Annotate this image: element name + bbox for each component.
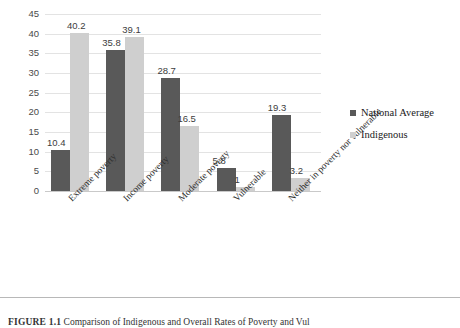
value-label-national-average: 19.3 xyxy=(268,103,287,113)
chart-plot-frame: 051015202530354045 10.440.235.839.128.71… xyxy=(0,0,460,298)
bar-group xyxy=(45,14,100,191)
legend-swatch-icon xyxy=(350,132,356,138)
legend-label: National Average xyxy=(361,108,434,119)
bar-indigenous xyxy=(70,33,89,191)
y-tick-label-35: 35 xyxy=(15,48,39,58)
bar-national-average xyxy=(217,168,236,191)
value-label-national-average: 10.4 xyxy=(47,138,66,148)
value-label-national-average: 35.8 xyxy=(102,38,121,48)
y-tick-label-10: 10 xyxy=(15,147,39,157)
y-tick-label-5: 5 xyxy=(15,166,39,176)
value-label-indigenous: 3.2 xyxy=(290,166,303,176)
figure-caption-text: Comparison of Indigenous and Overall Rat… xyxy=(64,317,310,327)
legend-swatch-icon xyxy=(350,110,356,116)
y-tick-label-25: 25 xyxy=(15,88,39,98)
y-tick-label-45: 45 xyxy=(15,9,39,19)
plot-area: 10.440.235.839.128.716.55.8119.33.2 xyxy=(45,14,321,191)
legend-label: Indigenous xyxy=(361,130,408,141)
bar-indigenous xyxy=(125,37,144,191)
bar-national-average xyxy=(272,115,291,191)
figure-caption-label: FIGURE 1.1 xyxy=(8,317,61,327)
legend-item[interactable]: National Average xyxy=(350,108,456,119)
y-tick-label-0: 0 xyxy=(15,186,39,196)
y-tick-label-40: 40 xyxy=(15,29,39,39)
legend-item[interactable]: Indigenous xyxy=(350,130,456,141)
figure-container: 051015202530354045 10.440.235.839.128.71… xyxy=(0,0,460,328)
value-label-indigenous: 1 xyxy=(235,175,240,185)
bar-national-average xyxy=(106,50,125,191)
bar-national-average xyxy=(161,78,180,191)
chart-legend: National AverageIndigenous xyxy=(350,108,456,151)
value-label-indigenous: 16.5 xyxy=(177,114,196,124)
y-tick-label-15: 15 xyxy=(15,127,39,137)
bar-national-average xyxy=(51,150,70,191)
figure-caption: FIGURE 1.1 Comparison of Indigenous and … xyxy=(8,316,456,328)
value-label-national-average: 28.7 xyxy=(157,66,176,76)
value-label-indigenous: 39.1 xyxy=(122,25,141,35)
y-tick-label-20: 20 xyxy=(15,107,39,117)
value-label-indigenous: 40.2 xyxy=(67,21,86,31)
y-tick-label-30: 30 xyxy=(15,68,39,78)
